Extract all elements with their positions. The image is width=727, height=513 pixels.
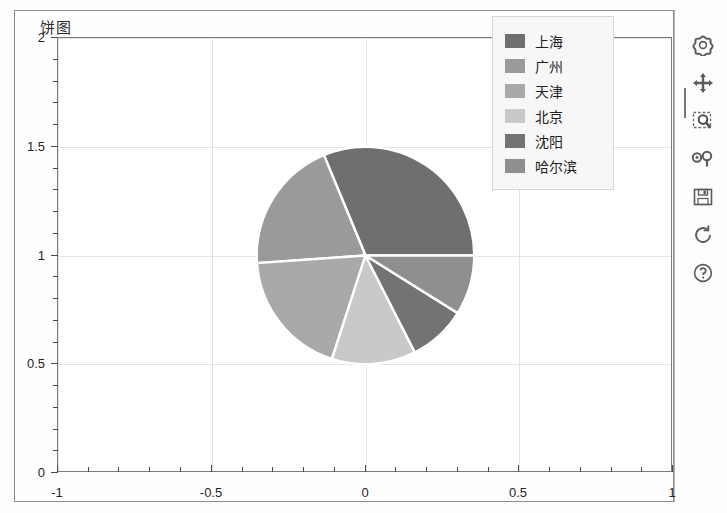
x-axis-tick-label: 0.5 [509,485,527,500]
refresh-button[interactable] [688,216,718,254]
legend-color-swatch [505,59,525,73]
x-axis-tick-label: -0.5 [200,485,222,500]
x-axis-minor-tick [549,467,550,472]
move-arrows-icon [692,72,714,94]
y-axis-tick [51,146,58,147]
x-axis-minor-tick [580,467,581,472]
pan-button[interactable] [688,64,718,102]
y-axis-minor-tick [53,211,58,212]
x-axis-minor-tick [334,467,335,472]
x-axis-minor-tick [242,467,243,472]
y-axis-minor-tick [53,59,58,60]
x-axis-minor-tick [180,467,181,472]
legend-item[interactable]: 上海 [505,28,601,53]
y-axis-minor-tick [53,81,58,82]
legend-item[interactable]: 广州 [505,53,601,78]
refresh-icon [692,224,714,246]
x-axis-minor-tick [149,467,150,472]
subplots-icon [691,149,715,169]
x-axis-tick [672,465,673,472]
x-axis-minor-tick [303,467,304,472]
zoom-rect-button[interactable] [688,102,718,140]
y-axis-minor-tick [53,385,58,386]
x-axis-minor-tick [88,467,89,472]
y-axis-tick [51,472,58,473]
y-axis-tick [51,363,58,364]
legend-item-label: 哈尔滨 [535,156,577,176]
y-axis-tick-label: 0 [38,465,45,480]
y-axis-tick-label: 2 [38,30,45,45]
help-button[interactable] [688,254,718,292]
y-axis-tick-label: 0.5 [27,356,45,371]
y-axis-tick [51,255,58,256]
navigation-toolbar[interactable] [686,26,720,292]
y-axis-minor-tick [53,429,58,430]
y-axis-minor-tick [53,320,58,321]
x-axis-minor-tick [611,467,612,472]
y-axis-minor-tick [53,233,58,234]
x-axis-minor-tick [426,467,427,472]
legend-item-label: 北京 [535,106,563,126]
legend-item[interactable]: 天津 [505,78,601,103]
question-mark-icon [692,262,714,284]
legend-color-swatch [505,34,525,48]
floppy-disk-icon [692,186,714,208]
x-axis-tick [518,465,519,472]
legend[interactable]: 上海广州天津北京沈阳哈尔滨 [492,16,614,190]
legend-item-label: 上海 [535,31,563,51]
x-axis-minor-tick [488,467,489,472]
legend-item-label: 广州 [535,56,563,76]
x-axis-tick [211,465,212,472]
x-axis-minor-tick [272,467,273,472]
y-axis-minor-tick [53,276,58,277]
y-axis-minor-tick [53,102,58,103]
y-axis-tick-label: 1 [38,248,45,263]
legend-color-swatch [505,159,525,173]
subplots-button[interactable] [688,140,718,178]
zoom-rect-icon [692,110,714,132]
y-axis-minor-tick [53,407,58,408]
legend-item[interactable]: 沈阳 [505,128,601,153]
x-axis-minor-tick [457,467,458,472]
legend-item[interactable]: 哈尔滨 [505,153,601,178]
y-axis-minor-tick [53,189,58,190]
legend-item[interactable]: 北京 [505,103,601,128]
legend-color-swatch [505,109,525,123]
x-axis-tick-label: -1 [51,485,63,500]
home-icon [692,34,714,56]
x-axis-tick [365,465,366,472]
x-axis-tick-label: 0 [361,485,368,500]
y-axis-minor-tick [53,124,58,125]
x-axis-minor-tick [395,467,396,472]
pie-chart-figure-window: 饼图 00.511.52-1-0.500.51 上海广州天津北京沈阳哈尔滨 [0,0,727,513]
y-axis-minor-tick [53,298,58,299]
x-axis-tick-label: 1 [668,485,675,500]
y-axis-minor-tick [53,168,58,169]
save-button[interactable] [688,178,718,216]
y-axis-minor-tick [53,342,58,343]
legend-item-label: 天津 [535,81,563,101]
legend-color-swatch [505,134,525,148]
x-axis-tick [57,465,58,472]
figure-frame-right-edge [674,10,675,502]
y-axis-minor-tick [53,450,58,451]
home-reset-button[interactable] [688,26,718,64]
legend-item-label: 沈阳 [535,131,563,151]
y-axis-tick [51,37,58,38]
x-axis-minor-tick [118,467,119,472]
y-axis-tick-label: 1.5 [27,139,45,154]
legend-color-swatch [505,84,525,98]
x-axis-minor-tick [641,467,642,472]
